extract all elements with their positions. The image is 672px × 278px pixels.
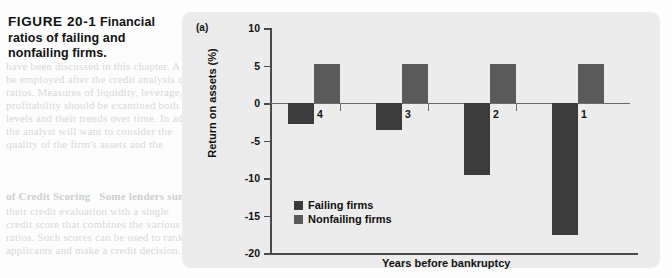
x-axis-tick bbox=[340, 104, 341, 111]
x-axis-title: Years before bankruptcy bbox=[382, 257, 510, 269]
chart-panel: (a) 10 5 0 -5 -10 -15 -20 Return on asse… bbox=[182, 12, 660, 268]
chart-legend: Failing firms Nonfailing firms bbox=[294, 198, 392, 226]
page-background: have been discussed in this chapter. A f… bbox=[0, 0, 672, 278]
x-axis-tick bbox=[428, 104, 429, 111]
bar-nonfailing-2 bbox=[490, 64, 516, 103]
y-axis-tick-label: 5 bbox=[220, 60, 260, 72]
x-axis-line bbox=[270, 253, 638, 255]
y-axis-tick-label: -15 bbox=[220, 210, 260, 222]
ghost-line: the analyst will want to consider the bbox=[6, 125, 172, 138]
group-label-4: 4 bbox=[317, 108, 323, 120]
x-axis-tick bbox=[516, 104, 517, 111]
plot-area: 10 5 0 -5 -10 -15 -20 Return on assets (… bbox=[182, 12, 660, 268]
y-axis-tick-label: -5 bbox=[220, 135, 260, 147]
legend-label: Failing firms bbox=[308, 199, 373, 211]
y-axis-tick bbox=[264, 216, 271, 218]
bar-failing-3 bbox=[376, 103, 402, 130]
ghost-line: be employed after the credit analysis of bbox=[6, 73, 188, 86]
ghost-line: ratios. Such scores can be used to rank bbox=[6, 231, 184, 244]
y-axis-tick bbox=[264, 66, 271, 68]
bar-nonfailing-4 bbox=[314, 64, 340, 103]
ghost-line: profitability should be examined both in bbox=[6, 99, 191, 112]
ghost-line: their credit evaluation with a single bbox=[6, 205, 169, 218]
legend-swatch-icon bbox=[294, 215, 303, 224]
legend-swatch-icon bbox=[294, 201, 303, 210]
ghost-line: have been discussed in this chapter. A f… bbox=[6, 60, 199, 73]
group-label-3: 3 bbox=[405, 108, 411, 120]
figure-caption: FIGURE 20-1 Financial ratios of failing … bbox=[8, 14, 176, 62]
bar-nonfailing-3 bbox=[402, 64, 428, 103]
y-axis-tick-label: 10 bbox=[220, 22, 260, 34]
bar-failing-1 bbox=[552, 103, 578, 235]
ghost-line: of Credit Scoring Some lenders sum- bbox=[6, 190, 191, 203]
ghost-line: applicants and make a credit decision. bbox=[6, 244, 181, 257]
bar-failing-4 bbox=[288, 103, 314, 124]
y-axis-tick-label: -20 bbox=[220, 247, 260, 259]
y-axis-title: Return on assets (%) bbox=[206, 48, 218, 157]
ghost-line: levels and their trends over time. In ad… bbox=[6, 112, 187, 125]
ghost-line: quality of the firm's assets and the bbox=[6, 138, 163, 151]
legend-label: Nonfailing firms bbox=[308, 213, 392, 225]
ghost-line: credit score that combines the various bbox=[6, 218, 180, 231]
y-axis-tick-label: -10 bbox=[220, 172, 260, 184]
y-axis-tick-label: 0 bbox=[220, 97, 260, 109]
figure-number: FIGURE 20-1 bbox=[8, 14, 96, 29]
group-label-1: 1 bbox=[581, 108, 587, 120]
ghost-line: ratios. Measures of liquidity, leverage, bbox=[6, 86, 183, 99]
bar-failing-2 bbox=[464, 103, 490, 175]
y-axis-tick bbox=[264, 28, 271, 30]
bar-nonfailing-1 bbox=[578, 64, 604, 103]
y-axis-tick bbox=[264, 141, 271, 143]
legend-item-failing: Failing firms bbox=[294, 198, 392, 212]
group-label-2: 2 bbox=[493, 108, 499, 120]
legend-item-nonfailing: Nonfailing firms bbox=[294, 212, 392, 226]
y-axis-tick bbox=[264, 178, 271, 180]
